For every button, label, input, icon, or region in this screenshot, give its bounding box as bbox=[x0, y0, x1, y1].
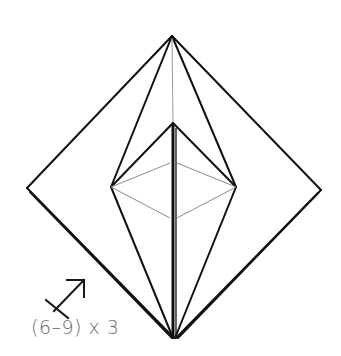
center-crease-line bbox=[172, 38, 173, 123]
fold-diagram-drawing bbox=[0, 0, 341, 356]
origami-diagram: (6–9) x 3 bbox=[0, 0, 341, 356]
repeat-steps-label: (6–9) x 3 bbox=[31, 316, 119, 338]
center-spine bbox=[173, 123, 176, 338]
repeat-turn-arrow-icon bbox=[46, 280, 84, 318]
